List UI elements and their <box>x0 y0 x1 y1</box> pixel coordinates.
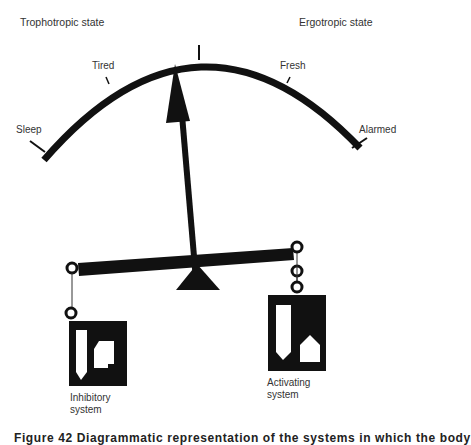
ergotropic-state-label: Ergotropic state <box>299 16 373 28</box>
inhibitory-weight <box>69 321 127 386</box>
left-beam-ring <box>67 263 77 273</box>
tick-fresh <box>287 77 290 83</box>
scale-label-alarmed: Alarmed <box>359 124 396 135</box>
tick-sleep <box>30 141 45 152</box>
scale-label-fresh: Fresh <box>280 60 306 71</box>
activating-weight <box>268 295 326 371</box>
tick-tired <box>106 77 109 84</box>
trophotropic-state-label: Trophotropic state <box>20 16 104 28</box>
inhibitory-line2: system <box>70 404 111 416</box>
inhibitory-system-label: Inhibitory system <box>70 392 111 416</box>
activating-line1: Activating <box>267 377 310 389</box>
scale-label-tired: Tired <box>92 60 114 71</box>
figure-caption: Figure 42 Diagrammatic representation of… <box>14 431 471 445</box>
activating-line2: system <box>267 389 310 401</box>
right-weight-ring <box>292 282 302 292</box>
inhibitory-line1: Inhibitory <box>70 392 111 404</box>
gauge-arc <box>44 67 360 160</box>
activating-system-label: Activating system <box>267 377 310 401</box>
balance-beam <box>78 248 294 276</box>
left-weight-ring <box>66 308 76 318</box>
scale-label-sleep: Sleep <box>16 124 42 135</box>
